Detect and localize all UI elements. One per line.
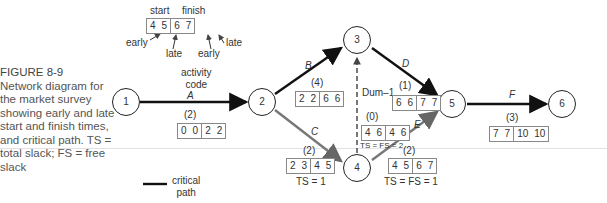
activity-a-duration: (2) [184,109,196,120]
dummy-duration: (0) [366,111,378,122]
activity-e-code: E [414,119,421,130]
activity-c-duration: (2) [303,145,315,156]
key-finish-label: finish [182,5,205,16]
node-2: 2 [248,88,276,116]
node-6: 6 [548,90,576,118]
critical-path-legend-label: critical path [172,175,200,199]
key-late-finish: late [226,37,242,48]
activity-b-code: B [305,60,312,71]
key-early-finish: early [198,48,220,59]
activity-c-times: 23 45 [286,158,335,174]
activity-a-times: 00 22 [177,123,226,139]
activity-code-label: activity code [181,67,212,91]
key-early-start: early [126,37,148,48]
key-time-box: 45 67 [146,18,195,34]
arrow-b [275,48,341,94]
node-4: 4 [343,154,371,182]
activity-c-slack: TS = 1 [296,176,326,187]
activity-a-code: A [187,90,194,101]
activity-f-times: 77 1010 [489,126,549,142]
dummy-slack: TS = FS = 2 [360,141,403,150]
activity-e-times: 45 67 [388,158,437,174]
activity-b-times: 22 66 [295,91,344,107]
activity-f-code: F [509,89,515,100]
key-start-label: start [150,5,169,16]
dummy-code: Dum–1 [362,87,394,98]
activity-d-times: 66 77 [392,95,441,111]
node-1: 1 [112,88,140,116]
activity-b-duration: (4) [311,77,323,88]
activity-d-code: D [402,58,409,69]
activity-e-duration: (2) [403,145,415,156]
activity-f-duration: (3) [506,112,518,123]
node-5: 5 [438,90,466,118]
key-late-start: late [166,48,182,59]
node-3: 3 [343,26,371,54]
activity-c-code: C [311,126,318,137]
dummy-times: 46 46 [361,125,410,141]
activity-d-duration: (1) [399,80,411,91]
activity-e-slack: TS = FS = 1 [384,176,438,187]
